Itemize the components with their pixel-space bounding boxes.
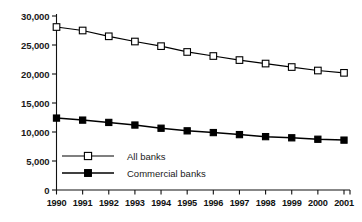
- data-point-1-6: [210, 129, 216, 135]
- x-axis-tick-label-3: 1993: [125, 198, 145, 208]
- x-axis-tick-label-8: 1998: [256, 198, 276, 208]
- y-axis-tick-label-1: 5,000: [0, 156, 50, 167]
- x-axis-tick-label-4: 1994: [151, 198, 171, 208]
- x-axis-tick-label-0: 1990: [47, 198, 67, 208]
- x-axis-tick-label-5: 1995: [177, 198, 197, 208]
- legend-label-0: All banks: [127, 151, 166, 162]
- data-point-0-11: [341, 70, 348, 77]
- data-point-1-2: [106, 119, 112, 125]
- data-point-1-3: [132, 122, 138, 128]
- data-point-0-1: [79, 27, 86, 34]
- data-point-1-0: [53, 115, 59, 121]
- y-axis-tick-label-3: 15,000: [0, 98, 50, 109]
- data-point-1-10: [315, 136, 321, 142]
- data-point-0-3: [132, 38, 139, 45]
- y-axis-tick-label-0: 0: [0, 185, 50, 196]
- x-axis-tick-label-7: 1997: [230, 198, 250, 208]
- series-line-1: [57, 118, 345, 140]
- data-point-0-0: [53, 24, 60, 31]
- data-point-1-8: [262, 134, 268, 140]
- data-point-0-2: [105, 33, 112, 40]
- y-axis-tick-label-6: 30,000: [0, 11, 50, 22]
- x-axis-tick-label-6: 1996: [203, 198, 223, 208]
- series-line-0: [57, 27, 345, 73]
- data-point-0-10: [315, 67, 322, 74]
- data-point-0-7: [236, 57, 243, 64]
- y-axis-tick-label-2: 10,000: [0, 127, 50, 138]
- legend-marker-0: [84, 152, 91, 159]
- y-axis-tick-label-5: 25,000: [0, 40, 50, 51]
- x-axis-tick-label-10: 2000: [308, 198, 328, 208]
- data-point-0-9: [288, 64, 295, 71]
- data-point-1-7: [236, 132, 242, 138]
- legend-marker-1: [85, 170, 92, 177]
- data-point-0-8: [262, 60, 269, 67]
- data-point-1-9: [289, 135, 295, 141]
- data-point-1-11: [341, 137, 347, 143]
- x-axis-tick-label-9: 1999: [282, 198, 302, 208]
- x-axis-tick-label-2: 1992: [99, 198, 119, 208]
- data-point-0-5: [184, 49, 191, 56]
- data-point-0-6: [210, 53, 217, 60]
- y-axis-tick-label-4: 20,000: [0, 69, 50, 80]
- x-axis-tick-label-11: 2001: [334, 198, 354, 208]
- plot-area: [0, 0, 362, 222]
- data-point-1-5: [184, 128, 190, 134]
- data-point-1-4: [158, 125, 164, 131]
- legend-label-1: Commercial banks: [127, 168, 206, 179]
- data-point-1-1: [80, 117, 86, 123]
- x-axis-tick-label-1: 1991: [73, 198, 93, 208]
- data-point-0-4: [158, 43, 165, 50]
- line-chart: 05,00010,00015,00020,00025,00030,000 199…: [0, 0, 362, 222]
